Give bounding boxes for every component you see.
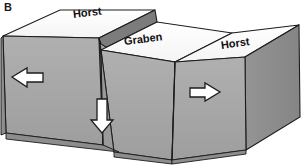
block-diagram-illustration	[0, 0, 302, 168]
left-horst-front-face	[3, 36, 103, 145]
panel-letter: B	[4, 2, 12, 13]
right-horst-front-face	[172, 57, 246, 160]
horst-graben-block-diagram: B Horst Graben Horst	[0, 0, 302, 168]
